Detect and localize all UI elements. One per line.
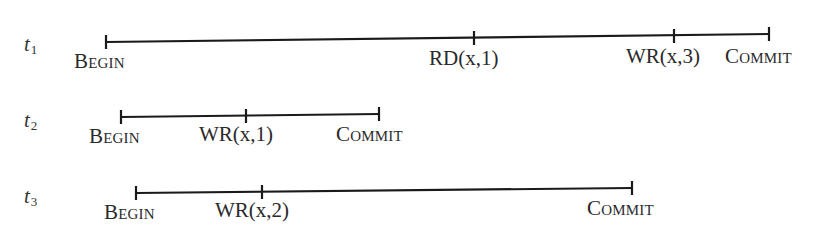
t1-timeline: [106, 34, 769, 42]
t1-begin-label: Begin: [74, 49, 125, 74]
t3-write-label: WR(x,2): [215, 198, 289, 223]
t1-commit-label: Commit: [725, 44, 792, 69]
t2-label-sub: 2: [31, 118, 38, 133]
t1-read-label: RD(x,1): [429, 46, 498, 71]
t3-label-sub: 3: [31, 194, 38, 209]
t3-commit-label: Commit: [587, 196, 654, 221]
t3-label-base: t: [24, 184, 30, 208]
t2-label: t2: [24, 108, 37, 134]
t2-commit-label: Commit: [336, 122, 403, 147]
t2-write-label: WR(x,1): [199, 122, 273, 147]
transaction-timeline-diagram: t1 t2 t3 Begin RD(x,1) WR(x,3) Commit Be…: [0, 0, 834, 244]
t1-label-base: t: [24, 32, 30, 56]
t3-begin-label: Begin: [104, 200, 155, 225]
t1-label-sub: 1: [31, 42, 38, 57]
t3-timeline: [136, 188, 632, 193]
t1-write-label: WR(x,3): [626, 44, 700, 69]
t2-timeline: [121, 114, 379, 117]
t1-label: t1: [24, 32, 37, 58]
t2-label-base: t: [24, 108, 30, 132]
t2-begin-label: Begin: [89, 124, 140, 149]
t3-label: t3: [24, 184, 37, 210]
